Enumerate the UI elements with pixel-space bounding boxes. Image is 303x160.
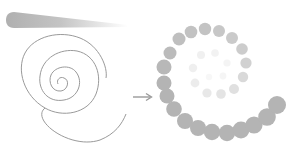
- spiral-dot: [219, 125, 235, 141]
- spiral-dot: [197, 51, 205, 59]
- diagram-canvas: [0, 0, 303, 160]
- spiral-dot: [157, 60, 172, 75]
- spiral-dot: [202, 88, 211, 97]
- spiral-dot: [211, 49, 219, 57]
- spiral-dot: [238, 72, 248, 82]
- spiral-dot: [190, 120, 206, 136]
- gradient-brush-stroke: [6, 12, 128, 28]
- spiral-dot: [216, 89, 226, 99]
- spiral-dot: [226, 32, 238, 44]
- spiral-dot: [164, 47, 177, 60]
- spiral-dot: [189, 64, 197, 72]
- dot-spiral-outer: [157, 23, 287, 141]
- dot-spiral-inner: [189, 49, 248, 99]
- spiral-dot: [173, 33, 186, 46]
- spiral-transformation-diagram: [0, 0, 303, 160]
- spiral-dot: [185, 26, 198, 39]
- spiral-dot: [240, 57, 251, 68]
- spiral-dot: [213, 25, 225, 37]
- spiral-dot: [229, 84, 239, 94]
- spiral-dot: [268, 96, 286, 114]
- spiral-dot: [220, 73, 227, 80]
- line-spiral-tail: [42, 108, 126, 142]
- spiral-dot: [191, 79, 200, 88]
- line-spiral: [21, 34, 106, 113]
- spiral-dot: [223, 59, 230, 66]
- spiral-dot: [204, 124, 220, 140]
- spiral-dot: [199, 23, 211, 35]
- spiral-dot: [206, 74, 212, 80]
- spiral-dot: [236, 43, 248, 55]
- spiral-dot: [157, 76, 172, 91]
- spiral-dot: [160, 89, 175, 104]
- spiral-dot: [166, 101, 182, 117]
- right-arrow-icon: [133, 94, 152, 101]
